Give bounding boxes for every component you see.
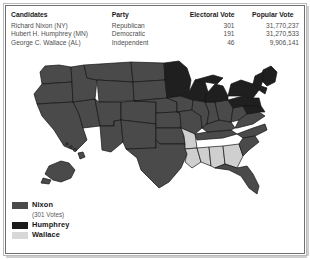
state-hawaii-inset-island-1 bbox=[66, 143, 68, 145]
us-map-svg bbox=[9, 58, 301, 206]
cell-party: Democratic bbox=[112, 31, 178, 39]
state-south-dakota bbox=[133, 80, 167, 101]
table-header-row: Candidates Party Electoral Vote Popular … bbox=[11, 12, 299, 22]
legend-item-nixon: Nixon bbox=[12, 200, 132, 210]
results-table: Candidates Party Electoral Vote Popular … bbox=[11, 12, 299, 47]
state-new-hampshire-vermont bbox=[253, 72, 263, 86]
state-washington bbox=[40, 65, 72, 84]
legend-item-wallace: Wallace bbox=[12, 230, 132, 240]
state-alaska-inset bbox=[45, 161, 75, 182]
state-montana bbox=[84, 62, 133, 82]
legend-label-nixon: Nixon bbox=[32, 201, 53, 208]
cell-candidate: Hubert H. Humphrey (MN) bbox=[11, 31, 112, 39]
state-new-mexico bbox=[121, 120, 156, 149]
figure-shadow-right bbox=[307, 6, 309, 256]
state-michigan bbox=[205, 84, 228, 102]
state-north-dakota bbox=[131, 62, 165, 82]
state-hawaii-inset-island-3 bbox=[74, 149, 77, 152]
state-minnesota bbox=[164, 61, 191, 98]
table-row: Hubert H. Humphrey (MN) Democratic 191 3… bbox=[11, 31, 299, 39]
cell-electoral-vote: 301 bbox=[178, 22, 247, 30]
state-wyoming bbox=[97, 80, 134, 102]
legend-item-humphrey: Humphrey bbox=[12, 220, 132, 230]
cell-candidate: Richard Nixon (NY) bbox=[11, 22, 112, 30]
legend-swatch-wallace bbox=[12, 232, 28, 239]
cell-candidate: George C. Wallace (AL) bbox=[11, 39, 112, 47]
legend-label-humphrey: Humphrey bbox=[32, 221, 69, 228]
state-florida bbox=[215, 164, 259, 194]
table-row: George C. Wallace (AL) Independent 46 9,… bbox=[11, 39, 299, 47]
state-kansas bbox=[156, 112, 181, 128]
cell-party: Independent bbox=[112, 39, 178, 47]
legend-swatch-nixon bbox=[12, 202, 28, 209]
column-header-candidates: Candidates bbox=[11, 12, 112, 22]
legend-subitem-nixon-votes: (301 Votes) bbox=[12, 210, 132, 220]
cell-popular-vote: 31,270,533 bbox=[246, 31, 299, 39]
state-oregon bbox=[34, 82, 73, 104]
state-south-carolina bbox=[239, 136, 259, 156]
figure-shadow-bottom bbox=[6, 256, 307, 258]
us-electoral-map bbox=[9, 58, 301, 206]
legend-swatch-humphrey bbox=[12, 222, 28, 229]
state-oklahoma bbox=[156, 128, 185, 144]
state-maryland bbox=[243, 106, 265, 114]
cell-electoral-vote: 46 bbox=[178, 39, 247, 47]
legend-swatch-spacer bbox=[12, 212, 28, 219]
state-alaska-inset-tail bbox=[41, 178, 51, 184]
legend-sublabel-nixon-votes: (301 Votes) bbox=[32, 212, 64, 218]
legend-label-wallace: Wallace bbox=[32, 231, 60, 238]
column-header-popular-vote: Popular Vote bbox=[246, 12, 299, 22]
column-header-electoral-vote: Electoral Vote bbox=[178, 12, 247, 22]
map-legend: Nixon (301 Votes) Humphrey Wallace bbox=[12, 200, 132, 240]
cell-electoral-vote: 191 bbox=[178, 31, 247, 39]
column-header-party: Party bbox=[112, 12, 178, 22]
state-hawaii-inset-island-2 bbox=[70, 146, 73, 149]
table-row: Richard Nixon (NY) Republican 301 31,770… bbox=[11, 22, 299, 30]
cell-popular-vote: 9,906,141 bbox=[246, 39, 299, 47]
cell-party: Republican bbox=[112, 22, 178, 30]
cell-popular-vote: 31,770,237 bbox=[246, 22, 299, 30]
state-hawaii-inset-big-island bbox=[78, 152, 85, 159]
state-maine bbox=[261, 66, 277, 86]
election-results-figure: Candidates Party Electoral Vote Popular … bbox=[0, 0, 310, 259]
